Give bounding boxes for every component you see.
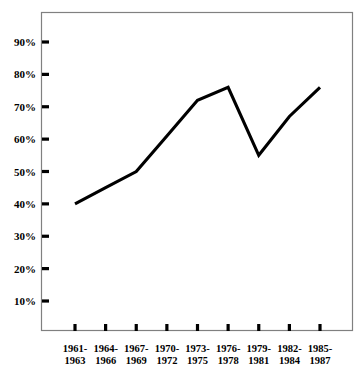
y-tick-label: 40%: [14, 198, 36, 210]
line-chart: 10%20%30%40%50%60%70%80%90% 1961-1963196…: [0, 0, 364, 376]
x-tick-label: 1979-1981: [247, 343, 272, 366]
x-tick-label: 1967-1969: [124, 343, 149, 366]
y-tick-label: 10%: [14, 295, 36, 307]
plot-frame: [42, 13, 353, 331]
x-axis-tick-labels: 1961-19631964-19661967-19691970-19721973…: [63, 343, 333, 366]
x-tick-label: 1976-1978: [216, 343, 241, 366]
y-tick-label: 60%: [14, 133, 36, 145]
y-tick-label: 30%: [14, 230, 36, 242]
x-tick-label: 1961-1963: [63, 343, 88, 366]
y-axis-tick-labels: 10%20%30%40%50%60%70%80%90%: [14, 36, 36, 307]
x-tick-label: 1970-1972: [155, 343, 180, 366]
y-tick-label: 20%: [14, 263, 36, 275]
x-tick-label: 1964-1966: [93, 343, 118, 366]
x-tick-label: 1982-1984: [277, 343, 302, 366]
chart-page: 10%20%30%40%50%60%70%80%90% 1961-1963196…: [0, 0, 364, 376]
x-tick-label: 1985-1987: [308, 343, 333, 366]
y-tick-label: 80%: [14, 68, 36, 80]
y-tick-label: 50%: [14, 166, 36, 178]
y-tick-label: 90%: [14, 36, 36, 48]
y-tick-label: 70%: [14, 101, 36, 113]
x-tick-label: 1973-1975: [185, 343, 210, 366]
